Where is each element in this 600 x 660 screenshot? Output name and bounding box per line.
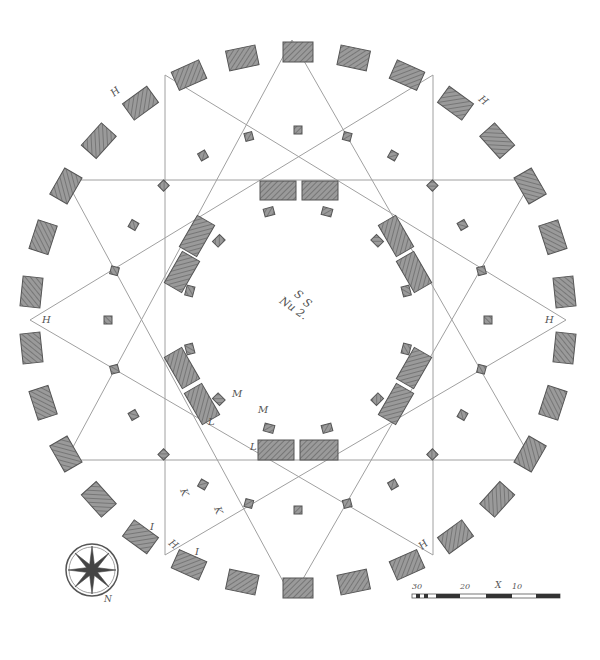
- outer-stone-ring: [20, 42, 576, 598]
- stone: [514, 168, 546, 204]
- stone: [50, 168, 82, 204]
- stone: [337, 45, 371, 71]
- stone: [539, 385, 567, 420]
- stone: [484, 316, 492, 324]
- stone: [514, 436, 546, 472]
- stone: [371, 234, 384, 247]
- svg-text:I: I: [194, 546, 200, 557]
- svg-text:H: H: [166, 536, 181, 551]
- stone: [388, 150, 399, 161]
- stone: [110, 364, 120, 374]
- stone: [337, 569, 371, 595]
- scale-bar: 30 20 X 10: [412, 580, 560, 598]
- stone: [50, 436, 82, 472]
- svg-text:L: L: [249, 441, 257, 452]
- stone: [427, 180, 438, 191]
- svg-text:10: 10: [512, 582, 522, 591]
- stone: [283, 578, 313, 598]
- architectural-plan: H H H H H H M M L L K K I I S S Nu 2. N: [0, 0, 600, 660]
- stone: [401, 285, 411, 297]
- stone: [263, 423, 275, 433]
- stone: [212, 234, 225, 247]
- svg-text:H: H: [107, 84, 122, 99]
- stone: [457, 220, 468, 231]
- svg-text:H: H: [41, 314, 51, 325]
- stone: [128, 220, 139, 231]
- stone: [110, 266, 120, 276]
- stone: [185, 285, 195, 297]
- stone: [294, 126, 302, 134]
- stone: [244, 499, 254, 509]
- stone: [437, 520, 473, 554]
- svg-text:K: K: [178, 486, 191, 498]
- stone: [553, 276, 576, 308]
- stone: [401, 343, 411, 355]
- stone: [553, 332, 576, 364]
- svg-text:M: M: [257, 404, 269, 415]
- stone: [342, 132, 352, 142]
- stone: [480, 123, 515, 159]
- svg-text:H: H: [544, 314, 554, 325]
- stone: [171, 60, 207, 90]
- stone: [128, 410, 139, 421]
- stone: [81, 481, 116, 517]
- middle-stone-ring: [104, 126, 492, 514]
- point-labels: H H H H H H M M L L K K I I: [41, 84, 554, 557]
- stone: [371, 393, 384, 406]
- stone: [427, 449, 438, 460]
- stone: [198, 479, 209, 490]
- stone: [437, 86, 473, 120]
- stone: [171, 550, 207, 580]
- stone: [388, 479, 399, 490]
- svg-text:X: X: [494, 580, 502, 590]
- stone: [20, 276, 43, 308]
- svg-text:M: M: [231, 388, 243, 399]
- stone: [283, 42, 313, 62]
- stone: [158, 180, 169, 191]
- svg-text:I: I: [149, 521, 155, 532]
- compass-rose: N: [66, 544, 118, 604]
- stone: [20, 332, 43, 364]
- svg-text:20: 20: [459, 582, 470, 591]
- inner-small-stones: [185, 207, 412, 434]
- stone: [244, 132, 254, 142]
- svg-text:L: L: [207, 416, 215, 427]
- svg-text:H: H: [476, 92, 491, 107]
- svg-text:K: K: [212, 504, 225, 516]
- center-title: S S Nu 2.: [276, 282, 317, 322]
- inner-hexagon: [164, 181, 431, 460]
- stone: [81, 123, 116, 159]
- stone: [457, 410, 468, 421]
- stone: [480, 481, 515, 517]
- svg-text:N: N: [103, 594, 113, 604]
- stone: [104, 316, 112, 324]
- stone: [263, 207, 275, 217]
- stone: [158, 449, 169, 460]
- svg-text:H: H: [415, 537, 430, 552]
- stone: [294, 506, 302, 514]
- stone: [226, 569, 260, 595]
- stone: [122, 86, 158, 120]
- stone: [321, 423, 333, 433]
- stone: [477, 266, 487, 276]
- stone: [477, 364, 487, 374]
- stone: [198, 150, 209, 161]
- stone: [29, 385, 57, 420]
- stone: [389, 60, 425, 90]
- svg-text:30: 30: [412, 582, 422, 591]
- stone: [342, 499, 352, 509]
- stone: [389, 550, 425, 580]
- stone: [226, 45, 260, 71]
- stone: [321, 207, 333, 217]
- stone: [212, 393, 225, 406]
- stone: [29, 220, 57, 255]
- stone: [539, 220, 567, 255]
- stone: [185, 343, 195, 355]
